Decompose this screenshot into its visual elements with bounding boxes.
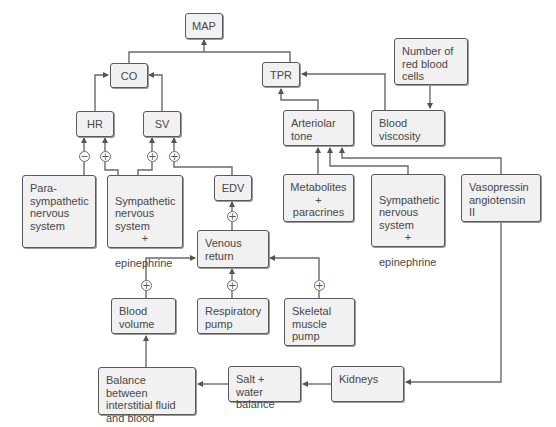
node-fluid-balance: Balance between interstitial fluid and b… xyxy=(98,367,196,415)
plus-symbol: + xyxy=(379,231,437,244)
minus-sign-icon: − xyxy=(79,151,90,162)
plus-sign-icon: + xyxy=(227,280,238,291)
node-salt-water-balance: Salt + water balance xyxy=(228,366,301,402)
node-metabolites-paracrines: Metabolites + paracrines xyxy=(283,174,354,222)
node-red-blood-cell-count: Number of red blood cells xyxy=(394,38,468,85)
node-blood-volume: Blood volume xyxy=(111,298,176,334)
sympathetic-heart-label: Sympathetic nervous system xyxy=(115,195,176,232)
node-map: MAP xyxy=(185,13,223,39)
node-blood-viscosity: Blood viscosity xyxy=(371,110,445,146)
node-sympathetic-vessels: Sympathetic nervous system + epinephrine xyxy=(371,174,445,247)
cardiovascular-map-diagram: MAP CO TPR HR SV Number of red blood cel… xyxy=(0,0,556,427)
node-heart-rate: HR xyxy=(76,111,114,137)
node-kidneys: Kidneys xyxy=(331,366,404,402)
node-arteriolar-tone: Arteriolar tone xyxy=(283,110,354,146)
node-venous-return: Venous return xyxy=(197,230,269,268)
node-cardiac-output: CO xyxy=(110,63,148,88)
plus-sign-icon: + xyxy=(147,151,158,162)
node-skeletal-muscle-pump: Skeletal muscle pump xyxy=(284,298,355,346)
plus-sign-icon: + xyxy=(227,211,238,222)
node-respiratory-pump: Respiratory pump xyxy=(197,298,269,334)
node-end-diastolic-volume: EDV xyxy=(214,175,252,201)
plus-sign-icon: + xyxy=(314,280,325,291)
sympathetic-vessels-label: Sympathetic nervous system xyxy=(379,194,440,231)
node-sympathetic-heart: Sympathetic nervous system + epinephrine xyxy=(107,175,183,248)
plus-sign-icon: + xyxy=(141,280,152,291)
plus-symbol: + xyxy=(115,232,175,245)
epinephrine-label: epinephrine xyxy=(379,256,437,268)
node-stroke-volume: SV xyxy=(143,111,181,137)
plus-sign-icon: + xyxy=(169,151,180,162)
epinephrine-label: epinephrine xyxy=(115,257,173,269)
plus-sign-icon: + xyxy=(100,151,111,162)
node-parasympathetic: Para- sympathetic nervous system xyxy=(22,175,96,248)
node-vasopressin-angiotensin: Vasopressin angiotensin II xyxy=(461,174,541,222)
node-total-peripheral-resistance: TPR xyxy=(262,62,300,87)
